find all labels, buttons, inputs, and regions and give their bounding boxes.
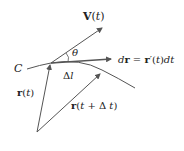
differential-label: dr = r′(t)dt: [118, 55, 174, 65]
curve-label: C: [14, 63, 22, 74]
velocity-label: V(t): [83, 11, 105, 22]
angle-label: θ: [72, 48, 78, 58]
position-t-label: r(t): [17, 88, 34, 98]
arc-length-label: Δl: [63, 71, 73, 81]
angle-arc: [66, 53, 69, 62]
curve-c: [27, 62, 135, 88]
position-t-dt-label: r(t + Δ t): [71, 101, 117, 111]
